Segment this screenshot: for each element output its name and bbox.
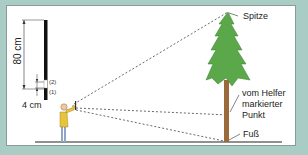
diagram-svg <box>0 0 308 155</box>
label-helper-line1: vom Helfer <box>242 88 286 98</box>
label-spitze: Spitze <box>243 11 268 21</box>
stick-mark-window <box>44 80 48 88</box>
label-80cm: 80 cm <box>13 37 23 64</box>
label-mark-1: (1) <box>49 87 56 97</box>
label-4cm: 4 cm <box>22 100 42 110</box>
label-helper-line3: Punkt <box>242 110 265 120</box>
label-helper-line2: markierter <box>242 99 283 109</box>
tree-trunk <box>224 80 229 142</box>
label-mark-2: (2) <box>49 77 56 87</box>
label-fuss: Fuß <box>243 129 259 139</box>
sight-lines <box>74 12 228 141</box>
person-figure <box>60 101 76 142</box>
tree-foliage <box>206 12 250 86</box>
